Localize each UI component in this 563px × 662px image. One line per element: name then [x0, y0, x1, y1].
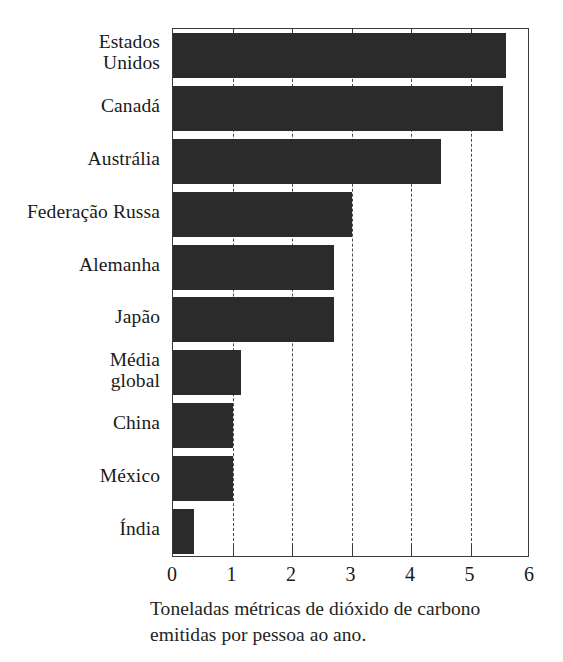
bar — [173, 86, 503, 131]
bar — [173, 350, 241, 395]
y-axis-label-8: México — [0, 465, 160, 486]
x-tick-label-3: 3 — [346, 563, 356, 585]
y-axis-label-9: Índia — [0, 518, 160, 539]
y-axis-label-5: Japão — [0, 306, 160, 327]
y-axis-label-7: China — [0, 412, 160, 433]
bar — [173, 297, 334, 342]
bar — [173, 456, 233, 501]
bar — [173, 139, 441, 184]
bar — [173, 192, 352, 237]
x-tick-label-4: 4 — [405, 563, 415, 585]
caption-line-2: emitidas por pessoa ao ano. — [150, 622, 550, 648]
x-tick-label-2: 2 — [286, 563, 296, 585]
y-axis-label-0: Estados Unidos — [0, 31, 160, 73]
y-axis-label-4: Alemanha — [0, 254, 160, 275]
bar-chart-figure: Estados UnidosCanadáAustráliaFederação R… — [0, 0, 563, 662]
bar — [173, 403, 233, 448]
x-tick-label-6: 6 — [524, 563, 534, 585]
chart-caption: Toneladas métricas de dióxido de carbono… — [150, 596, 550, 648]
x-tick-label-0: 0 — [167, 563, 177, 585]
bottom-tick-5 — [471, 545, 472, 556]
caption-line-1: Toneladas métricas de dióxido de carbono — [150, 596, 550, 622]
y-axis-label-6: Média global — [0, 349, 160, 391]
bar — [173, 33, 506, 78]
bottom-tick-4 — [411, 545, 412, 556]
y-axis-label-3: Federação Russa — [0, 201, 160, 222]
plot-area — [172, 28, 529, 557]
x-tick-label-5: 5 — [465, 563, 475, 585]
x-tick-label-1: 1 — [227, 563, 237, 585]
bottom-tick-3 — [352, 545, 353, 556]
bottom-tick-1 — [233, 545, 234, 556]
y-axis-label-2: Austrália — [0, 148, 160, 169]
y-axis-label-1: Canadá — [0, 95, 160, 116]
bar — [173, 509, 194, 554]
bar — [173, 245, 334, 290]
bottom-tick-2 — [292, 545, 293, 556]
